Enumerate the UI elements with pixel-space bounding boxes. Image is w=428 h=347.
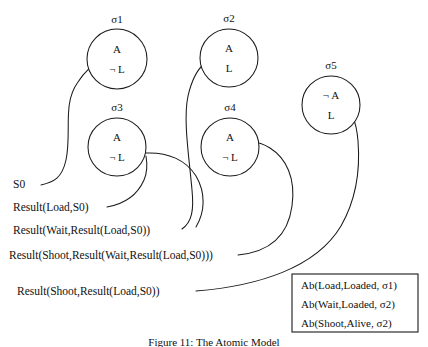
node-sigma3-line2: ¬ L (109, 151, 125, 163)
node-sigma4-line1: A (226, 131, 234, 143)
legend-line-ab-shoot: Ab(Shoot,Alive, σ2) (301, 317, 392, 330)
node-sigma5-circle (302, 76, 360, 134)
edge-sigma3-arc (146, 153, 203, 227)
legend-line-ab-wait: Ab(Wait,Loaded, σ2) (301, 298, 395, 311)
node-sigma3-name: σ3 (111, 101, 123, 113)
node-sigma2-name: σ2 (223, 12, 234, 24)
node-sigma5-line2: L (328, 109, 335, 121)
node-sigma3[interactable]: σ3 A ¬ L (88, 101, 146, 176)
situation-label-result-load: Result(Load,S0) (13, 201, 89, 214)
node-sigma5-line1: ¬ A (323, 89, 339, 101)
node-sigma1-circle (87, 29, 147, 89)
node-sigma2-line2: L (226, 62, 233, 74)
situation-label-result-wait: Result(Wait,Result(Load,S0)) (13, 224, 150, 237)
node-sigma2[interactable]: σ2 A L (200, 12, 258, 87)
node-sigma1-line2: ¬ L (109, 63, 125, 75)
situation-label-result-shoot-load: Result(Shoot,Result(Load,S0)) (17, 285, 160, 298)
node-sigma4-circle (201, 118, 259, 176)
node-sigma4-line2: ¬ L (222, 151, 238, 163)
node-sigma5[interactable]: σ5 ¬ A L (302, 59, 360, 134)
node-sigma1-name: σ1 (111, 13, 122, 25)
abnormality-legend-box: Ab(Load,Loaded, σ1) Ab(Wait,Loaded, σ2) … (292, 274, 418, 332)
situation-label-result-shoot-wait: Result(Shoot,Result(Wait,Result(Load,S0)… (9, 249, 213, 262)
node-sigma2-circle (200, 29, 258, 87)
edge-s0-to-sigma1 (41, 61, 101, 185)
situation-label-list: S0 Result(Load,S0) Result(Wait,Result(Lo… (9, 178, 213, 298)
situation-label-s0: S0 (13, 178, 25, 190)
node-sigma5-name: σ5 (325, 59, 337, 71)
node-sigma1[interactable]: σ1 A ¬ L (87, 13, 147, 89)
node-sigma3-circle (88, 118, 146, 176)
atomic-model-diagram: σ1 A ¬ L σ2 A L σ3 A ¬ L σ4 A ¬ L σ5 ¬ A… (0, 0, 428, 347)
figure-caption: Figure 11: The Atomic Model (148, 336, 279, 347)
node-sigma4[interactable]: σ4 A ¬ L (201, 101, 259, 176)
node-sigma3-line1: A (113, 131, 121, 143)
legend-line-ab-load: Ab(Load,Loaded, σ1) (301, 279, 397, 292)
node-sigma1-line1: A (113, 43, 121, 55)
node-sigma4-name: σ4 (224, 101, 236, 113)
node-sigma2-line1: A (225, 42, 233, 54)
